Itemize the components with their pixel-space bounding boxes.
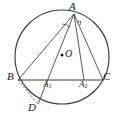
point-label-a1-base: A (43, 79, 49, 89)
point-label-d: D (28, 102, 36, 113)
segment-ab (18, 14, 74, 80)
geometry-canvas (0, 0, 117, 120)
point-label-a2: A2 (79, 80, 88, 89)
point-label-a2-subscript: 2 (85, 83, 88, 89)
point-label-c: C (103, 71, 110, 82)
geometry-figure: A B C D O A1 A2 (0, 0, 117, 120)
segment-a-a2 (74, 14, 84, 80)
point-label-a1-subscript: 1 (49, 83, 52, 89)
point-label-o: O (65, 49, 72, 59)
point-label-a2-base: A (79, 79, 85, 89)
center-dot-icon (61, 54, 64, 57)
point-label-b: B (7, 71, 14, 82)
point-label-a: A (69, 1, 76, 12)
segment-ad (38, 14, 74, 104)
segment-ac (74, 14, 103, 80)
point-label-a1: A1 (43, 80, 52, 89)
